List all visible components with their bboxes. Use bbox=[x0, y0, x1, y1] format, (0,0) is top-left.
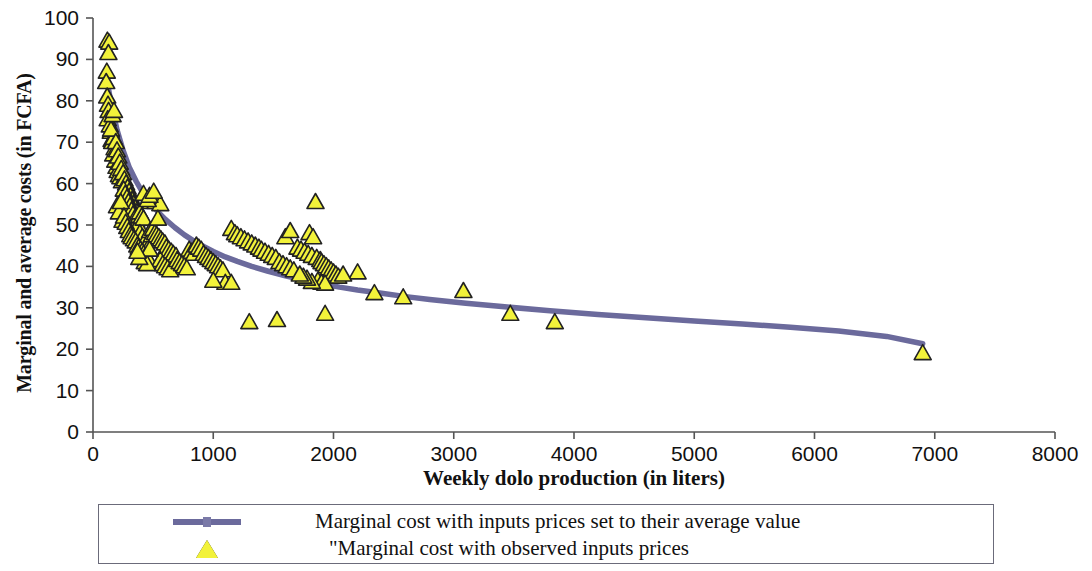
x-tick-label: 1000 bbox=[190, 442, 237, 466]
x-tick-label: 2000 bbox=[310, 442, 357, 466]
x-tick-label: 4000 bbox=[551, 442, 598, 466]
legend-item-line: Marginal cost with inputs prices set to … bbox=[99, 508, 993, 535]
x-tick-label: 6000 bbox=[791, 442, 838, 466]
y-axis-title: Marginal and average costs (in FCFA) bbox=[9, 13, 39, 453]
observed-cost-markers bbox=[98, 32, 932, 360]
x-axis-title: Weekly dolo production (in liters) bbox=[93, 466, 1055, 491]
chart-legend: Marginal cost with inputs prices set to … bbox=[98, 504, 994, 564]
x-axis-title-text: Weekly dolo production (in liters) bbox=[423, 466, 725, 490]
x-tick-label: 5000 bbox=[671, 442, 718, 466]
legend-key-line bbox=[99, 519, 315, 525]
marginal-cost-line bbox=[106, 76, 923, 344]
x-tick-label: 7000 bbox=[911, 442, 958, 466]
x-tick-label: 8000 bbox=[1032, 442, 1079, 466]
x-tick-label: 3000 bbox=[430, 442, 477, 466]
y-axis-title-text: Marginal and average costs (in FCFA) bbox=[13, 73, 36, 393]
line-swatch-icon bbox=[173, 519, 241, 525]
legend-label-markers: "Marginal cost with observed inputs pric… bbox=[329, 536, 689, 561]
triangle-marker-icon bbox=[196, 540, 218, 558]
chart-figure: 1009080706050403020100 01000200030004000… bbox=[0, 0, 1092, 571]
legend-label-line: Marginal cost with inputs prices set to … bbox=[315, 509, 800, 534]
legend-item-markers: "Marginal cost with observed inputs pric… bbox=[99, 535, 993, 562]
legend-key-triangle bbox=[99, 540, 315, 558]
x-tick-label: 0 bbox=[87, 442, 99, 466]
